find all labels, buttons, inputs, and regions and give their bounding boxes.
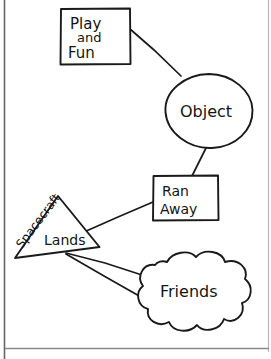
connector-play-to-object <box>130 29 181 76</box>
concept-map-diagram: Play and Fun Object Ran Away Spacecraft … <box>0 0 271 359</box>
node-spacecraft-lands[interactable]: Spacecraft Lands <box>13 191 99 258</box>
diagram-canvas: Play and Fun Object Ran Away Spacecraft … <box>0 0 271 359</box>
lands-label: Lands <box>44 232 85 248</box>
play-and-fun-label-line3: Fun <box>68 44 95 62</box>
friends-label: Friends <box>160 282 218 301</box>
connector-object-to-ran-away <box>192 148 206 176</box>
ran-away-label-line2: Away <box>160 201 197 217</box>
object-label: Object <box>180 102 232 121</box>
connector-spacecraft-to-friends-upper <box>66 253 142 275</box>
node-ran-away[interactable]: Ran Away <box>153 176 219 221</box>
node-object[interactable]: Object <box>165 74 252 148</box>
ran-away-label-line1: Ran <box>162 183 189 199</box>
connector-spacecraft-to-friends-lower <box>66 254 141 297</box>
node-friends[interactable]: Friends <box>138 252 251 331</box>
connector-ran-away-to-spacecraft <box>84 202 153 232</box>
play-and-fun-label-line2: and <box>77 30 101 45</box>
node-play-and-fun[interactable]: Play and Fun <box>61 9 131 65</box>
